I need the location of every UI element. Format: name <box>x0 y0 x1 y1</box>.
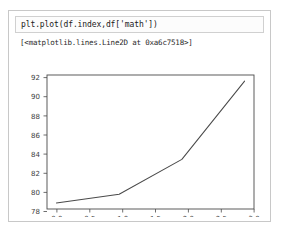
line-chart-svg: 92 90 88 86 84 82 80 78 0.0 <box>15 53 264 217</box>
y-tick-label: 92 <box>31 74 40 82</box>
y-tick-label: 90 <box>31 93 40 101</box>
x-tick-label: 2.0 <box>183 215 194 217</box>
x-tick-label: 0.0 <box>51 215 62 217</box>
y-tick-label: 78 <box>31 208 40 216</box>
x-tick-label: 1.5 <box>150 215 161 217</box>
matplotlib-figure: 92 90 88 86 84 82 80 78 0.0 <box>15 53 264 217</box>
y-tick-label: 84 <box>31 151 40 159</box>
y-tick-label: 80 <box>31 189 40 197</box>
y-tick-label: 86 <box>31 132 40 140</box>
x-tick-label: 2.5 <box>216 215 227 217</box>
x-tick-label: 0.5 <box>84 215 95 217</box>
y-tick-label: 82 <box>31 170 40 178</box>
x-tick-label: 1.0 <box>117 215 128 217</box>
code-input-cell[interactable]: plt.plot(df.index,df['math']) <box>15 16 264 33</box>
x-tick-label: 3.0 <box>249 215 260 217</box>
code-input-text: plt.plot(df.index,df['math']) <box>21 20 158 29</box>
cell-output-repr: [<matplotlib.lines.Line2D at 0xa6c7518>] <box>20 38 193 47</box>
notebook-output-card: plt.plot(df.index,df['math']) [<matplotl… <box>8 10 271 222</box>
y-tick-label: 88 <box>31 113 40 121</box>
figure-background <box>15 53 264 217</box>
